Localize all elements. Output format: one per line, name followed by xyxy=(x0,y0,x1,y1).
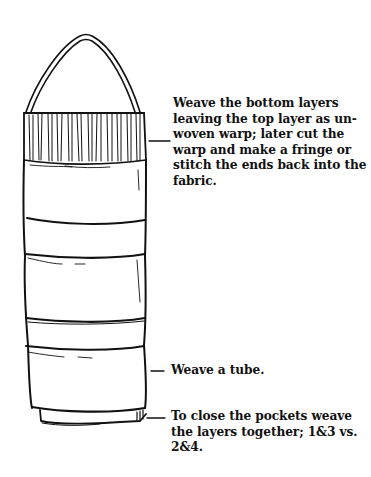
tube-body xyxy=(24,160,147,408)
annotation-top-line-2: leaving the top layer as un- xyxy=(173,112,366,128)
annotation-top-line-5: stitch the ends back into the xyxy=(173,158,366,174)
bag-illustration xyxy=(0,0,371,477)
annotation-tube-line-1: Weave a tube. xyxy=(171,363,264,379)
annotation-close-line-3: 2&4. xyxy=(171,440,357,456)
annotation-top-line-3: woven warp; later cut the xyxy=(173,127,366,143)
annotation-top: Weave the bottom layers leaving the top … xyxy=(173,96,366,190)
annotation-close-line-1: To close the pockets weave xyxy=(171,409,357,425)
layer-bands xyxy=(24,160,146,412)
annotation-close: To close the pockets weave the layers to… xyxy=(171,409,357,456)
strap xyxy=(26,35,140,113)
annotation-top-line-4: warp and make a fringe or xyxy=(173,143,366,159)
annotation-top-line-1: Weave the bottom layers xyxy=(173,96,366,112)
warp-fringe xyxy=(24,113,146,161)
annotation-tube: Weave a tube. xyxy=(171,363,264,379)
leader-lines xyxy=(147,141,170,418)
annotation-top-line-6: fabric. xyxy=(173,174,366,190)
annotation-close-line-2: the layers together; 1&3 vs. xyxy=(171,425,357,441)
